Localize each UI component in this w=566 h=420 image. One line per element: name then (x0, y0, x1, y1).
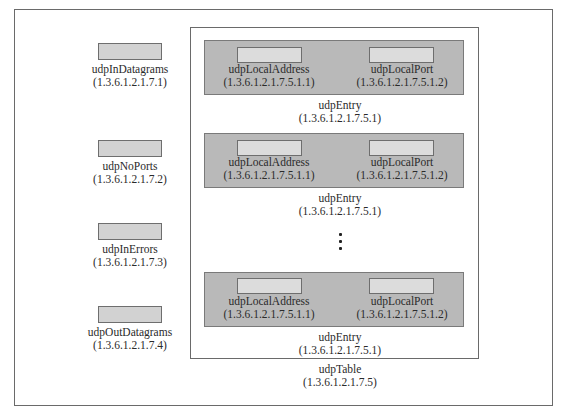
field-udpLocalAddress-label: udpLocalAddress (1.3.6.1.2.1.7.5.1.1) (209, 156, 329, 181)
field-oid: (1.3.6.1.2.1.7.5.1.1) (209, 308, 329, 321)
scalar-oid: (1.3.6.1.2.1.7.2) (70, 173, 190, 186)
entry-oid: (1.3.6.1.2.1.7.5.1) (280, 112, 400, 125)
field-name: udpLocalAddress (209, 156, 329, 169)
vertical-ellipsis-icon (339, 233, 343, 253)
scalar-name: udpInErrors (70, 243, 190, 256)
ellipsis-dot (339, 247, 342, 250)
table-oid: (1.3.6.1.2.1.7.5) (280, 376, 400, 389)
field-oid: (1.3.6.1.2.1.7.5.1.1) (209, 169, 329, 182)
field-udpLocalAddress-box (237, 278, 302, 294)
field-oid: (1.3.6.1.2.1.7.5.1.2) (342, 308, 462, 321)
field-name: udpLocalAddress (209, 63, 329, 76)
scalar-udpInDatagrams-label: udpInDatagrams (1.3.6.1.2.1.7.1) (70, 63, 190, 88)
field-name: udpLocalPort (342, 156, 462, 169)
entry-oid: (1.3.6.1.2.1.7.5.1) (280, 205, 400, 218)
field-udpLocalAddress-label: udpLocalAddress (1.3.6.1.2.1.7.5.1.1) (209, 295, 329, 320)
field-udpLocalPort-label: udpLocalPort (1.3.6.1.2.1.7.5.1.2) (342, 295, 462, 320)
field-udpLocalPort-label: udpLocalPort (1.3.6.1.2.1.7.5.1.2) (342, 156, 462, 181)
udp-entry-label: udpEntry (1.3.6.1.2.1.7.5.1) (280, 192, 400, 217)
ellipsis-dot (339, 240, 342, 243)
entry-oid: (1.3.6.1.2.1.7.5.1) (280, 344, 400, 357)
field-udpLocalPort-box (369, 140, 434, 156)
field-name: udpLocalAddress (209, 295, 329, 308)
entry-name: udpEntry (280, 331, 400, 344)
scalar-name: udpNoPorts (70, 160, 190, 173)
scalar-udpInErrors-label: udpInErrors (1.3.6.1.2.1.7.3) (70, 243, 190, 268)
field-udpLocalPort-box (369, 47, 434, 63)
scalar-name: udpInDatagrams (70, 63, 190, 76)
entry-name: udpEntry (280, 99, 400, 112)
field-udpLocalAddress-label: udpLocalAddress (1.3.6.1.2.1.7.5.1.1) (209, 63, 329, 88)
scalar-udpNoPorts-label: udpNoPorts (1.3.6.1.2.1.7.2) (70, 160, 190, 185)
scalar-udpInErrors-box (98, 223, 162, 240)
scalar-udpOutDatagrams-label: udpOutDatagrams (1.3.6.1.2.1.7.4) (70, 326, 190, 351)
table-name: udpTable (280, 363, 400, 376)
scalar-oid: (1.3.6.1.2.1.7.3) (70, 256, 190, 269)
field-oid: (1.3.6.1.2.1.7.5.1.1) (209, 76, 329, 89)
scalar-name: udpOutDatagrams (70, 326, 190, 339)
ellipsis-dot (339, 233, 342, 236)
udp-entry-label: udpEntry (1.3.6.1.2.1.7.5.1) (280, 331, 400, 356)
field-udpLocalAddress-box (237, 47, 302, 63)
udp-table-label: udpTable (1.3.6.1.2.1.7.5) (280, 363, 400, 388)
scalar-udpInDatagrams-box (98, 43, 162, 60)
scalar-oid: (1.3.6.1.2.1.7.1) (70, 76, 190, 89)
field-udpLocalPort-box (369, 278, 434, 294)
field-udpLocalPort-label: udpLocalPort (1.3.6.1.2.1.7.5.1.2) (342, 63, 462, 88)
field-name: udpLocalPort (342, 63, 462, 76)
field-oid: (1.3.6.1.2.1.7.5.1.2) (342, 76, 462, 89)
scalar-udpNoPorts-box (98, 140, 162, 157)
field-oid: (1.3.6.1.2.1.7.5.1.2) (342, 169, 462, 182)
field-udpLocalAddress-box (237, 140, 302, 156)
scalar-oid: (1.3.6.1.2.1.7.4) (70, 339, 190, 352)
field-name: udpLocalPort (342, 295, 462, 308)
scalar-udpOutDatagrams-box (98, 306, 162, 323)
udp-entry-label: udpEntry (1.3.6.1.2.1.7.5.1) (280, 99, 400, 124)
entry-name: udpEntry (280, 192, 400, 205)
